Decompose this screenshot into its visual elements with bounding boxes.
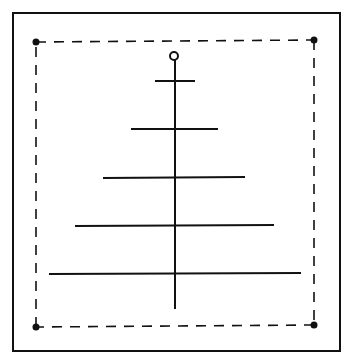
tree-diagram — [0, 0, 348, 361]
corner-dot-top-right — [311, 37, 318, 44]
corner-dot-bottom-right — [311, 322, 318, 329]
top-circle — [170, 52, 178, 60]
branch-5 — [49, 273, 301, 274]
corner-dot-bottom-left — [33, 324, 40, 331]
branch-4 — [75, 225, 274, 226]
branch-3 — [103, 177, 245, 178]
corner-dot-top-left — [33, 39, 40, 46]
outer-frame — [13, 13, 340, 351]
